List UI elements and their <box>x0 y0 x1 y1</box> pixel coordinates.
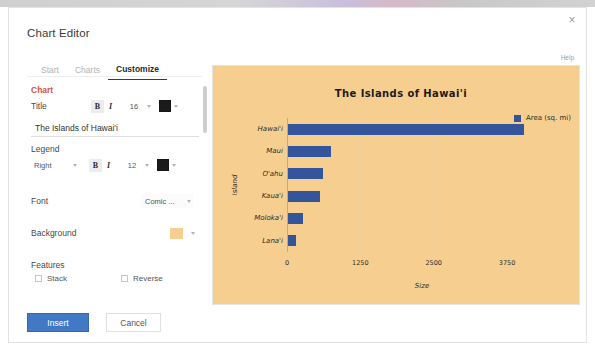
chart-category-label: Maui <box>266 147 283 155</box>
chevron-down-icon[interactable] <box>145 164 149 167</box>
chevron-down-icon[interactable] <box>174 105 178 108</box>
chevron-down-icon[interactable] <box>147 105 151 108</box>
chart-x-axis-title: Size <box>287 282 557 290</box>
chart-y-axis-title: Island <box>231 175 239 196</box>
legend-position-select[interactable]: Right <box>31 158 79 172</box>
chart-bar-row: Maui <box>288 140 557 162</box>
font-row: Font Comic ... <box>31 190 207 212</box>
capture-fringe <box>0 0 595 7</box>
close-icon[interactable]: × <box>565 13 579 27</box>
tab-charts[interactable]: Charts <box>67 61 108 80</box>
chart-bar[interactable] <box>288 235 296 246</box>
page-title: Chart Editor <box>27 27 90 39</box>
tab-start[interactable]: Start <box>33 61 67 80</box>
checkbox-icon[interactable] <box>35 275 42 282</box>
background-row: Background <box>31 222 207 244</box>
chart-legend: Area (sq. mi) <box>514 114 571 122</box>
font-family-value: Comic ... <box>145 197 175 206</box>
customize-settings-panel: Chart Title B I 16 Legend Right <box>27 82 207 302</box>
title-font-size-select[interactable]: 16 <box>124 102 144 111</box>
chart-category-label: Hawai'i <box>258 125 283 133</box>
title-style-row: Title B I 16 <box>31 95 207 117</box>
tab-divider <box>27 76 202 77</box>
legend-style-controls: B I 12 <box>89 159 176 172</box>
insert-button[interactable]: Insert <box>27 313 89 332</box>
chart-x-tick-label: 2500 <box>425 259 442 267</box>
features-row: Stack Reverse <box>35 274 207 283</box>
chevron-down-icon[interactable] <box>191 232 195 235</box>
chart-category-label: Moloka'i <box>254 214 283 222</box>
tab-bar: Start Charts Customize <box>33 60 167 80</box>
legend-italic-button[interactable]: I <box>102 159 115 172</box>
legend-position-value: Right <box>34 161 52 170</box>
title-style-controls: B I 16 <box>91 100 178 113</box>
chart-bar-row: Moloka'i <box>288 207 557 229</box>
chart-bar-row: O'ahu <box>288 163 557 185</box>
legend-bold-button[interactable]: B <box>89 159 102 172</box>
tab-customize[interactable]: Customize <box>108 60 167 80</box>
legend-color-swatch[interactable] <box>157 159 169 171</box>
title-bold-button[interactable]: B <box>91 100 104 113</box>
features-section-heading: Features <box>31 260 207 270</box>
chart-title-input[interactable] <box>31 120 199 137</box>
chevron-down-icon <box>187 200 191 203</box>
panel-scrollbar-thumb[interactable] <box>203 86 207 133</box>
feature-stack[interactable]: Stack <box>35 274 121 283</box>
chevron-down-icon <box>73 164 77 167</box>
title-italic-button[interactable]: I <box>104 100 117 113</box>
chart-bar[interactable] <box>288 124 524 135</box>
chart-title: The Islands of Hawai'i <box>213 88 579 99</box>
chart-bar[interactable] <box>288 213 303 224</box>
chart-section-heading: Chart <box>31 85 207 95</box>
chart-bar-row: Lana'i <box>288 230 557 252</box>
chart-editor-dialog: × Chart Editor Help Start Charts Customi… <box>8 7 587 343</box>
feature-stack-label: Stack <box>47 274 67 283</box>
title-color-swatch[interactable] <box>159 100 171 112</box>
cancel-button[interactable]: Cancel <box>106 313 161 332</box>
background-color-swatch[interactable] <box>170 228 183 239</box>
legend-style-row: Right B I 12 <box>31 154 207 176</box>
dialog-footer: Insert Cancel <box>27 313 161 332</box>
legend-color-icon <box>514 115 521 122</box>
legend-section-heading: Legend <box>31 144 207 154</box>
chart-x-tick-label: 0 <box>285 259 289 267</box>
chart-x-ticks: 0125025003750 <box>287 259 557 271</box>
chart-plot-area: Hawai'iMauiO'ahuKaua'iMoloka'iLana'i <box>287 118 557 252</box>
chart-bar[interactable] <box>288 146 331 157</box>
chevron-down-icon[interactable] <box>172 164 176 167</box>
feature-reverse[interactable]: Reverse <box>121 274 207 283</box>
font-label: Font <box>31 196 91 206</box>
legend-font-size-select[interactable]: 12 <box>122 161 142 170</box>
checkbox-icon[interactable] <box>121 275 128 282</box>
chart-bars: Hawai'iMauiO'ahuKaua'iMoloka'iLana'i <box>288 118 557 252</box>
chart-category-label: Lana'i <box>262 237 283 245</box>
legend-series-label: Area (sq. mi) <box>526 114 571 122</box>
chart-category-label: Kaua'i <box>262 192 283 200</box>
chart-bar[interactable] <box>288 168 323 179</box>
chart-bar[interactable] <box>288 191 320 202</box>
screenshot-root: × Chart Editor Help Start Charts Customi… <box>0 0 595 350</box>
title-label: Title <box>31 101 91 111</box>
feature-reverse-label: Reverse <box>133 274 163 283</box>
background-label: Background <box>31 228 111 238</box>
help-link[interactable]: Help <box>561 54 574 61</box>
font-family-select[interactable]: Comic ... <box>141 194 193 208</box>
chart-x-tick-label: 1250 <box>352 259 369 267</box>
chart-x-tick-label: 3750 <box>499 259 516 267</box>
chart-bar-row: Kaua'i <box>288 185 557 207</box>
chart-category-label: O'ahu <box>262 170 283 178</box>
chart-preview[interactable]: The Islands of Hawai'i Island Hawai'iMau… <box>212 65 580 305</box>
